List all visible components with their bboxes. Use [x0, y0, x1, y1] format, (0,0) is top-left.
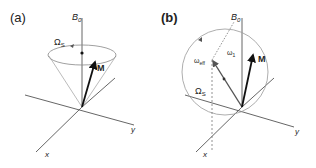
m-label: M [97, 63, 105, 73]
omega-1-label: ω1 [227, 49, 235, 58]
panel-a: (a) B0 ΩS M x y [10, 10, 136, 159]
m-vector-arrow [82, 62, 95, 107]
eff-vector-dot [223, 78, 226, 81]
omega-s-label: ΩS [54, 37, 65, 48]
y-axis-label: y [130, 125, 136, 134]
m-vector-arrow [242, 55, 253, 107]
y-axis-line [185, 95, 294, 127]
omega-s-label: ΩS [195, 86, 206, 97]
y-axis-label: y [294, 127, 300, 136]
x-axis-line [36, 107, 82, 152]
precession-direction-arrow-icon [70, 44, 74, 48]
b0-label: B0 [231, 12, 241, 23]
figure-canvas: (a) B0 ΩS M x y (b) [0, 0, 316, 168]
panel-a-label: (a) [10, 10, 26, 25]
m-label: M [258, 54, 266, 64]
panel-b-label: (b) [161, 10, 178, 25]
x-axis-label: x [202, 150, 208, 159]
omega-eff-vector-arrow [213, 61, 242, 107]
panel-b: (b) B0 ωeff ω1 ΩS M x y [161, 10, 300, 159]
b0-label: B0 [72, 12, 82, 23]
omega-eff-label: ωeff [194, 57, 206, 66]
cone-center-dot [80, 51, 83, 54]
precession-circle [182, 29, 268, 115]
x-axis-label: x [44, 150, 50, 159]
